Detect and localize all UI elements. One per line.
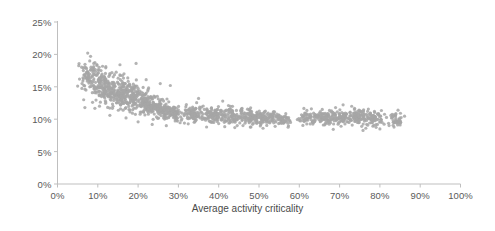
- y-tick-label: 5%: [10, 146, 52, 157]
- x-tick-label: 50%: [249, 190, 268, 201]
- y-tick-label: 25%: [10, 17, 52, 28]
- y-tick-label: 0%: [10, 179, 52, 190]
- y-tick-label: 15%: [10, 81, 52, 92]
- scatter-chart: 0%5%10%15%20%25% 0%10%20%30%40%50%60%70%…: [0, 0, 495, 231]
- x-tick-label: 20%: [128, 190, 147, 201]
- x-tick-label: 90%: [411, 190, 430, 201]
- x-tick-label: 30%: [169, 190, 188, 201]
- axis-ticks: [54, 22, 461, 188]
- x-tick-label: 80%: [370, 190, 389, 201]
- x-axis-title: Average activity criticality: [0, 203, 495, 214]
- x-tick-label: 70%: [330, 190, 349, 201]
- x-tick-label: 40%: [209, 190, 228, 201]
- x-tick-label: 60%: [290, 190, 309, 201]
- y-tick-label: 20%: [10, 49, 52, 60]
- x-tick-label: 100%: [448, 190, 473, 201]
- x-tick-label: 10%: [88, 190, 107, 201]
- data-point-layer: [76, 52, 406, 133]
- y-tick-label: 10%: [10, 114, 52, 125]
- x-tick-label: 0%: [51, 190, 65, 201]
